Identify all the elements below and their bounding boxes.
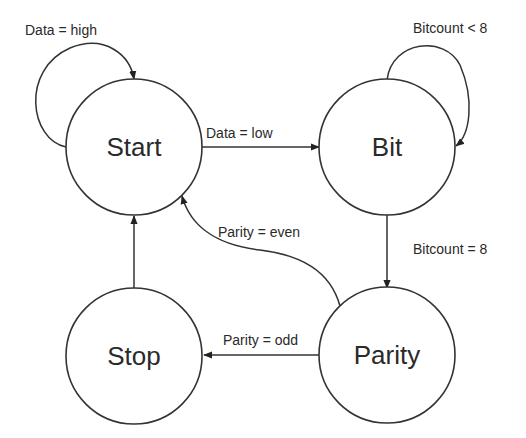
arrow-parity-to-start <box>182 196 340 306</box>
state-diagram: Data = high Data = low Bitcount < 8 Bitc… <box>0 0 526 438</box>
state-bit-label: Bit <box>372 132 403 162</box>
label-data-high: Data = high <box>25 22 97 38</box>
state-parity: Parity <box>319 287 455 423</box>
label-bitcount-eq-8: Bitcount = 8 <box>413 241 488 257</box>
label-parity-even: Parity = even <box>218 224 300 240</box>
state-bit: Bit <box>319 79 455 215</box>
state-start-label: Start <box>107 132 163 162</box>
transition-parity-to-start <box>182 196 340 306</box>
label-data-low: Data = low <box>206 125 273 141</box>
state-stop: Stop <box>66 288 202 424</box>
state-parity-label: Parity <box>354 340 420 370</box>
state-start: Start <box>66 79 202 215</box>
label-bitcount-lt-8: Bitcount < 8 <box>413 20 488 36</box>
label-parity-odd: Parity = odd <box>223 332 298 348</box>
state-stop-label: Stop <box>107 341 161 371</box>
